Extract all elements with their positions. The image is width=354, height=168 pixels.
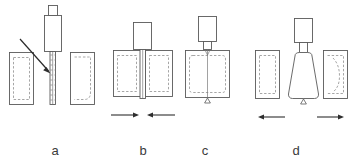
panel-d-weld-nugget — [288, 53, 318, 99]
panel-b-label: b — [139, 143, 146, 158]
panel-b-right-workpiece — [146, 51, 173, 97]
panel-d: d — [256, 19, 348, 159]
panel-d-left-workpiece — [256, 51, 280, 99]
panel-c-pin-tip — [205, 98, 211, 103]
panel-d-motion-arrow-right — [317, 114, 344, 119]
diagram-svg: a — [0, 0, 354, 168]
panel-d-pin-tip — [301, 99, 307, 104]
panel-b: b — [111, 23, 175, 159]
panel-b-tool-shoulder — [134, 23, 152, 50]
panel-d-right-workpiece — [324, 51, 348, 99]
panel-d-label: d — [292, 143, 299, 158]
panel-c-label: c — [202, 143, 209, 158]
panel-a-right-workpiece — [71, 53, 95, 105]
panel-c-tool-neck — [204, 42, 212, 50]
panel-b-motion-arrow-right — [147, 112, 175, 117]
panel-d-tool-shank — [295, 19, 313, 43]
panel-c: c — [186, 17, 230, 159]
panel-b-left-workpiece — [114, 51, 141, 97]
figure-canvas: a — [0, 0, 354, 168]
panel-a: a — [10, 6, 95, 159]
panel-a-label: a — [51, 143, 59, 158]
panel-d-motion-arrow-left — [258, 114, 285, 119]
panel-b-motion-arrow-left — [111, 112, 139, 117]
panel-a-tool-shank — [49, 6, 58, 16]
panel-d-tool-neck — [300, 43, 308, 54]
panel-c-tool-shoulder — [199, 17, 217, 42]
panel-a-tool-shoulder — [45, 16, 62, 52]
panel-a-left-workpiece — [10, 53, 34, 105]
